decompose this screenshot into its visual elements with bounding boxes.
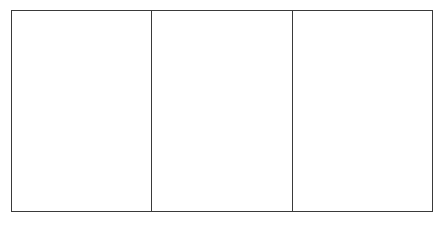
- panel-2: [151, 11, 291, 211]
- panel-1: [12, 11, 151, 211]
- three-panel-frame: [11, 10, 433, 212]
- panel-3: [292, 11, 432, 211]
